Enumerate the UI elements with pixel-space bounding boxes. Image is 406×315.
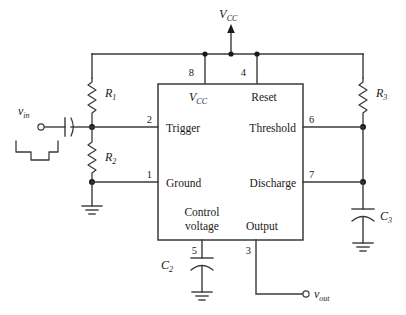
terminal-label-vout: vout (314, 287, 330, 303)
junction-dot-pin8 (202, 51, 207, 56)
component-label-c2: C2 (161, 258, 173, 274)
component-label-r3: R3 (375, 86, 387, 102)
vin-terminal[interactable] (38, 124, 44, 130)
input-group (16, 118, 92, 160)
resistor-r2-symbol (88, 127, 96, 182)
circuit-diagram-canvas: VCC 8 4 2 1 6 7 5 3 VCC Reset Trigger Gr… (0, 0, 406, 315)
vout-wire (256, 240, 303, 294)
pin-label-output: Output (246, 220, 279, 233)
ic-body-555 (158, 84, 303, 240)
pin-number-3: 3 (246, 245, 251, 256)
junction-dot-vcc (228, 51, 233, 56)
pin-number-5: 5 (192, 245, 197, 256)
output-branch-group (256, 240, 309, 297)
pin-number-2: 2 (147, 114, 152, 125)
pin-label-control-voltage-line2: voltage (185, 220, 219, 233)
vout-terminal[interactable] (303, 291, 309, 297)
resistor-r1-symbol (88, 78, 96, 127)
ground-symbol-c2 (192, 292, 212, 300)
pin-label-control-voltage-line1: Control (184, 206, 219, 218)
vin-waveform-symbol (16, 141, 58, 160)
pin-number-1: 1 (147, 169, 152, 180)
left-branch-group (82, 78, 158, 214)
component-label-c3: C3 (380, 209, 392, 225)
vcc-supply-label: VCC (219, 7, 238, 23)
right-branch-group (303, 78, 374, 251)
pin-label-trigger: Trigger (166, 122, 200, 135)
ground-symbol-right (353, 243, 373, 251)
junction-dot-pin4 (254, 51, 259, 56)
pin-number-8: 8 (189, 67, 194, 78)
pin-number-6: 6 (309, 114, 314, 125)
pin-label-discharge: Discharge (250, 177, 296, 190)
terminal-label-vin: vin (18, 104, 30, 120)
pin-number-4: 4 (241, 67, 247, 78)
pin-label-threshold: Threshold (249, 122, 296, 134)
component-label-r1: R1 (104, 86, 116, 102)
supply-rail-group (92, 24, 363, 84)
pin-label-reset: Reset (251, 91, 277, 103)
pin-label-ground: Ground (166, 177, 201, 189)
schematic-svg: VCC 8 4 2 1 6 7 5 3 VCC Reset Trigger Gr… (0, 0, 406, 315)
vcc-arrow-head (227, 24, 235, 33)
ground-symbol-left (82, 206, 102, 214)
component-label-r2: R2 (104, 150, 116, 166)
pin-number-7: 7 (309, 169, 314, 180)
resistor-r3-symbol (359, 78, 367, 127)
